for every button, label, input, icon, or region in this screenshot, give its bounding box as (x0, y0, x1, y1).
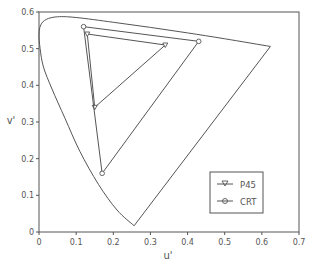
x-tick-label: 0.3 (144, 238, 157, 247)
legend-label-crt: CRT (240, 197, 257, 207)
y-axis-ticks: 00.10.20.30.40.50.6 (21, 8, 39, 237)
x-tick-label: 0.7 (293, 238, 306, 247)
x-tick-label: 0.6 (255, 238, 268, 247)
x-axis-ticks: 00.10.20.30.40.50.60.7 (36, 232, 305, 247)
y-tick-label: 0.5 (21, 45, 34, 54)
x-tick-label: 0.5 (218, 238, 231, 247)
series-p45 (85, 32, 168, 110)
x-tick-label: 0.2 (107, 238, 120, 247)
series-crt (81, 24, 201, 175)
x-tick-label: 0.4 (181, 238, 194, 247)
circle-marker-icon (100, 171, 105, 176)
y-tick-label: 0.4 (21, 81, 34, 90)
legend-label-p45: P45 (240, 180, 256, 190)
triangle-marker-icon (92, 105, 97, 110)
triangle-marker-icon (85, 32, 90, 37)
legend: P45 CRT (210, 172, 263, 213)
chromaticity-chart: 00.10.20.30.40.50.60.7 00.10.20.30.40.50… (0, 0, 313, 267)
circle-marker-icon (196, 39, 201, 44)
y-tick-label: 0.6 (21, 8, 34, 17)
y-tick-label: 0 (29, 228, 34, 237)
gamut-triangle (84, 27, 199, 174)
y-tick-label: 0.1 (21, 191, 34, 200)
gamut-triangle (87, 34, 165, 107)
x-tick-label: 0 (36, 238, 41, 247)
y-tick-label: 0.2 (21, 155, 34, 164)
data-series (81, 24, 201, 175)
x-axis-label: u' (163, 250, 172, 261)
circle-marker-icon (81, 24, 86, 29)
y-axis-label: v' (7, 115, 16, 126)
x-tick-label: 0.1 (70, 238, 83, 247)
y-tick-label: 0.3 (21, 118, 34, 127)
